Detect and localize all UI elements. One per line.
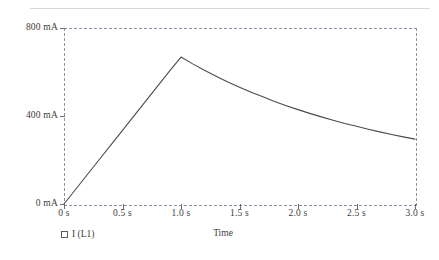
x-tick-mark bbox=[64, 204, 65, 209]
x-tick-mark bbox=[357, 204, 358, 209]
plot-svg bbox=[64, 28, 416, 205]
x-tick-label: 1.5 s bbox=[230, 208, 249, 218]
y-tick-label: 0 mA bbox=[36, 198, 58, 208]
y-tick-mark bbox=[60, 116, 65, 117]
legend-label: I (L1) bbox=[72, 229, 94, 239]
y-tick-mark bbox=[60, 28, 65, 29]
x-tick-mark bbox=[123, 204, 124, 209]
x-tick-mark bbox=[415, 204, 416, 209]
x-tick-label: 0 s bbox=[58, 208, 69, 218]
x-axis-tick-labels: 0 s0.5 s1.0 s1.5 s2.0 s2.5 s3.0 s bbox=[0, 208, 439, 224]
y-tick-label: 800 mA bbox=[26, 22, 58, 32]
x-tick-mark bbox=[298, 204, 299, 209]
series-line-I-L1 bbox=[64, 57, 415, 204]
x-tick-mark bbox=[240, 204, 241, 209]
x-tick-label: 2.5 s bbox=[347, 208, 366, 218]
x-axis-title: Time bbox=[213, 228, 233, 238]
x-tick-mark bbox=[181, 204, 182, 209]
chart-legend[interactable]: I (L1) bbox=[61, 229, 94, 239]
current-vs-time-chart: 0 mA400 mA800 mA 0 s0.5 s1.0 s1.5 s2.0 s… bbox=[0, 0, 439, 260]
x-tick-label: 3.0 s bbox=[406, 208, 425, 218]
x-tick-label: 2.0 s bbox=[289, 208, 308, 218]
legend-marker-icon bbox=[61, 231, 68, 238]
x-tick-label: 0.5 s bbox=[113, 208, 132, 218]
y-tick-label: 400 mA bbox=[26, 110, 58, 120]
x-tick-label: 1.0 s bbox=[172, 208, 191, 218]
